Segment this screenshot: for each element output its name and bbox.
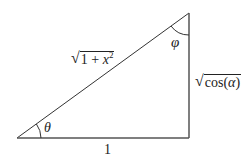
sqrt-expression: √ 1 + x2	[71, 50, 114, 67]
hypotenuse-label: √ 1 + x2	[71, 50, 114, 67]
radical-sign-icon: √	[71, 50, 80, 66]
phi-label: φ	[171, 35, 179, 50]
vertical-side-label: √ cos(α)	[195, 73, 241, 90]
close-paren: )	[235, 75, 240, 90]
base-label: 1	[104, 143, 111, 157]
sqrt-expression: √ cos(α)	[195, 73, 241, 90]
radicand: cos(α)	[204, 74, 241, 90]
theta-label: θ	[44, 121, 51, 135]
radical-sign-icon: √	[195, 73, 204, 89]
hypotenuse-line	[17, 13, 189, 138]
radicand: 1 + x2	[80, 51, 115, 67]
radicand-prefix: 1 +	[81, 52, 103, 67]
exponent: 2	[109, 50, 114, 60]
variable-x: x	[103, 52, 109, 67]
theta-angle-arc	[36, 124, 41, 138]
cos-function: cos(	[205, 75, 228, 90]
